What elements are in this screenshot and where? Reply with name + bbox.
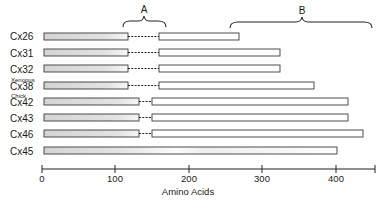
row-bars-cx43 (44, 114, 348, 121)
brace-a-label: A (141, 4, 148, 15)
x-axis: 0 100 200 300 400 Amino Acids (39, 165, 375, 197)
brace-b-label: B (299, 5, 306, 16)
brace-b: B (230, 5, 372, 28)
tick-label-300: 300 (254, 173, 270, 184)
row-bars-cx46 (44, 130, 363, 137)
tick-label-100: 100 (107, 173, 123, 184)
row-bars-cx42 (44, 98, 348, 105)
row-label-cx26: Cx26 (10, 31, 34, 42)
tick-label-200: 200 (181, 173, 197, 184)
brace-a: A (123, 4, 166, 27)
row-label-cx43: Cx43 (10, 113, 34, 124)
row-label-cx46: Cx46 (10, 129, 34, 140)
tick-label-400: 400 (328, 173, 344, 184)
row-bars-cx31 (44, 49, 280, 56)
row-label-cx31: Cx31 (10, 48, 34, 59)
row-bars-cx45 (44, 147, 337, 154)
row-label-cx42: Cx42 (10, 97, 34, 108)
tick-label-0: 0 (39, 173, 44, 184)
axis-label: Amino Acids (162, 186, 215, 197)
row-label-cx32: Cx32 (10, 64, 34, 75)
row-bars-cx26 (44, 33, 239, 40)
connexin-diagram: A B Cx26 Cx31 Cx32 Xenopus Cx38 Chick Cx… (0, 0, 384, 201)
row-bars-cx38 (44, 82, 314, 89)
row-label-cx38: Cx38 (10, 81, 34, 92)
row-label-cx45: Cx45 (10, 146, 34, 157)
row-bars-cx32 (44, 65, 280, 72)
